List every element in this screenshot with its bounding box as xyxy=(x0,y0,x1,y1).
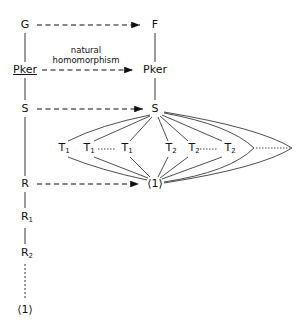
node-Pker-right: Pker xyxy=(143,64,167,76)
node-T1: T1 xyxy=(83,142,94,157)
diagram-lines xyxy=(0,0,305,333)
node-R: R xyxy=(21,178,29,190)
lattice-lines xyxy=(68,112,292,183)
node-T2: T2 xyxy=(165,142,176,157)
node-G: G xyxy=(21,19,30,31)
node-trivial-right: ⟨1⟩ xyxy=(147,178,163,190)
node-T1: T1 xyxy=(58,142,69,157)
node-S-right: S xyxy=(152,103,159,115)
node-Pker-left: Pker xyxy=(13,64,37,76)
node-R1: R1 xyxy=(21,211,33,226)
node-F: F xyxy=(152,19,158,31)
node-trivial-left: ⟨1⟩ xyxy=(17,304,33,316)
node-T1: T1 xyxy=(121,142,132,157)
node-T2: T2 xyxy=(224,142,235,157)
node-S-left: S xyxy=(22,103,29,115)
node-T2: T2 xyxy=(188,142,199,157)
arrow-label-natural-homomorphism: natural homomorphism xyxy=(53,45,120,65)
node-R2: R2 xyxy=(21,247,33,262)
